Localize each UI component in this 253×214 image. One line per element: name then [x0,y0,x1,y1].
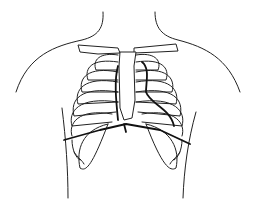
illustration [0,0,253,214]
ribcage-drawing [0,0,253,214]
right-ribs [136,54,183,169]
left-ribs [71,54,118,169]
sternum [119,52,136,120]
